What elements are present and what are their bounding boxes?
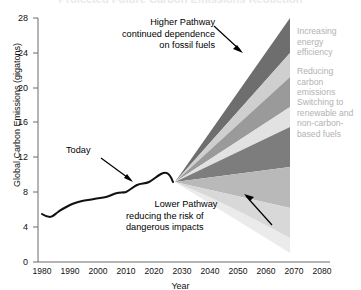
annotation-lower-line1: Lower Pathway — [126, 199, 246, 211]
y-tick-label-28: 28 — [6, 13, 28, 23]
y-tick-label-24: 24 — [6, 48, 28, 58]
side-label-switching-line3: non-carbon- — [297, 118, 361, 129]
y-tick-label-16: 16 — [6, 117, 28, 127]
side-label-switching-line2: renewable and — [297, 108, 361, 119]
annotation-today: Today — [66, 145, 91, 157]
higher-arrowhead — [233, 45, 243, 53]
side-label-reducing-line1: Reducing carbon — [297, 66, 361, 87]
y-tick-label-4: 4 — [6, 222, 28, 232]
side-label-efficiency-line2: energy — [297, 37, 359, 48]
annotation-higher-line3: on fossil fuels — [80, 40, 215, 52]
annotation-higher-line1: Higher Pathway — [80, 17, 215, 29]
side-label-switching-to-renewables: Switching to renewable and non-carbon- b… — [297, 97, 361, 139]
y-tick-label-12: 12 — [6, 152, 28, 162]
side-label-switching-line1: Switching to — [297, 97, 361, 108]
y-tick-label-8: 8 — [6, 187, 28, 197]
side-label-efficiency-line3: efficiency — [297, 47, 359, 58]
side-label-reducing-line2: emissions — [297, 87, 361, 98]
annotation-higher-line2: continued dependence — [80, 29, 215, 41]
y-tick-label-20: 20 — [6, 83, 28, 93]
annotation-higher-pathway: Higher Pathway continued dependence on f… — [80, 17, 215, 52]
x-axis-label: Year — [0, 281, 361, 290]
annotation-lower-line2: reducing the risk of — [126, 211, 246, 223]
x-tick-label-2080: 2080 — [305, 266, 339, 276]
side-label-efficiency-line1: Increasing — [297, 26, 359, 37]
y-axis-label: Global Carbon Emissions (gigatons) — [12, 35, 22, 195]
chart-figure: Projected Future Carbon Emissions Reduct… — [0, 0, 361, 290]
annotation-lower-pathway: Lower Pathway reducing the risk of dange… — [126, 199, 246, 234]
side-label-reducing-carbon-emissions: Reducing carbon emissions — [297, 66, 361, 98]
side-label-switching-line4: based fuels — [297, 129, 361, 140]
side-label-increasing-energy-efficiency: Increasing energy efficiency — [297, 26, 359, 58]
annotation-lower-line3: dangerous impacts — [126, 222, 246, 234]
